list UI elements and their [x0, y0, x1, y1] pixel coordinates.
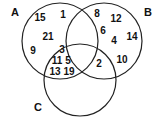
venn-diagram: A B C 151219812641410311513192: [0, 0, 159, 119]
region-number-b-only: 6: [100, 25, 106, 36]
region-number-b-only: 4: [111, 35, 117, 46]
region-number-b-only: 12: [110, 13, 122, 24]
region-number-a-only: 21: [42, 31, 54, 42]
region-number-b-only: 14: [126, 31, 138, 42]
region-number-a-only: 9: [30, 45, 36, 56]
region-number-a-and-c: 3: [59, 44, 65, 55]
region-number-a-and-c: 11: [52, 55, 63, 66]
set-label-a: A: [11, 6, 19, 18]
set-label-b: B: [144, 6, 152, 18]
region-number-b-only: 8: [94, 8, 100, 19]
set-label-c: C: [34, 101, 42, 113]
region-number-a-only: 1: [60, 9, 66, 20]
region-number-a-and-c: 5: [65, 55, 71, 66]
region-number-a-only: 15: [34, 12, 46, 23]
region-number-b-and-c: 2: [96, 58, 102, 69]
region-number-a-and-c: 19: [63, 66, 75, 77]
region-number-a-and-c: 13: [49, 66, 61, 77]
region-number-b-only: 10: [116, 54, 128, 65]
